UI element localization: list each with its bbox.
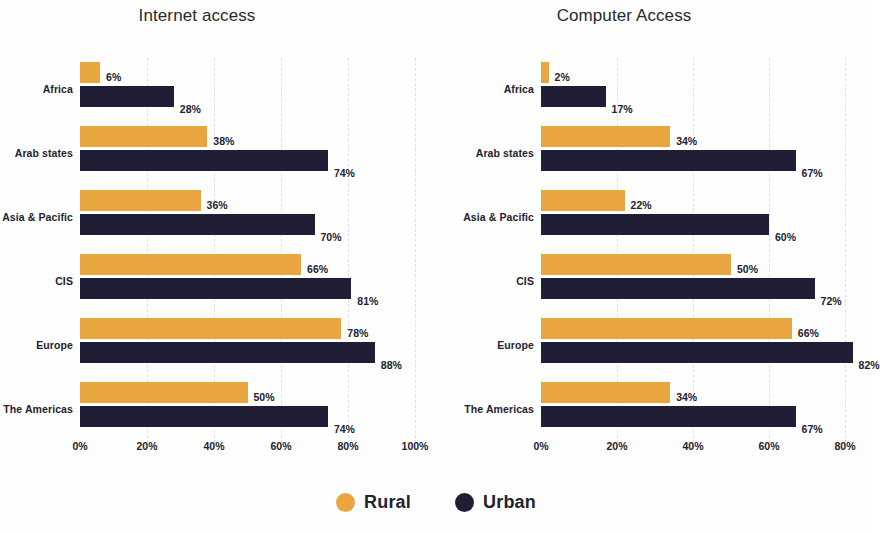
bar-group: CIS50%72% [541, 254, 845, 307]
bar-value-label: 60% [775, 231, 796, 243]
x-axis-tick: 20% [136, 440, 157, 452]
bar-value-label: 82% [859, 359, 880, 371]
bar-value-label: 36% [207, 199, 228, 211]
bar-value-label: 22% [631, 199, 652, 211]
bar-rural[interactable] [541, 318, 792, 339]
bar-urban[interactable] [541, 406, 796, 427]
chart-title-computer-access: Computer Access [436, 6, 872, 26]
bar-rural[interactable] [80, 318, 341, 339]
bar-rural[interactable] [80, 190, 201, 211]
bar-row-rural: 66% [541, 318, 845, 339]
bar-row-urban: 67% [541, 406, 845, 427]
bar-rural[interactable] [541, 254, 731, 275]
bar-value-label: 74% [334, 423, 355, 435]
category-label: Asia & Pacific [2, 211, 73, 223]
bar-urban[interactable] [80, 278, 351, 299]
legend-swatch-urban-circle-icon [455, 493, 474, 512]
bar-value-label: 66% [307, 263, 328, 275]
category-label: Asia & Pacific [463, 211, 534, 223]
bar-group: Europe78%88% [80, 318, 415, 371]
bar-value-label: 50% [737, 263, 758, 275]
x-axis-tick: 40% [203, 440, 224, 452]
category-label: Africa [504, 83, 534, 95]
bar-row-rural: 34% [541, 382, 845, 403]
bar-value-label: 50% [254, 391, 275, 403]
bar-rural[interactable] [80, 126, 207, 147]
bar-urban[interactable] [541, 150, 796, 171]
bar-row-urban: 67% [541, 150, 845, 171]
bar-rural[interactable] [80, 254, 301, 275]
bar-group: Europe66%82% [541, 318, 845, 371]
chart-panel-internet-access: Internet access Africa6%28%Arab states38… [0, 0, 436, 470]
bar-row-rural: 66% [80, 254, 415, 275]
bar-value-label: 17% [612, 103, 633, 115]
bar-group: Asia & Pacific22%60% [541, 190, 845, 243]
bar-rural[interactable] [80, 62, 100, 83]
x-axis-tick: 40% [682, 440, 703, 452]
bar-row-urban: 88% [80, 342, 415, 363]
bar-urban[interactable] [541, 342, 853, 363]
x-axis-tick: 100% [402, 440, 429, 452]
bar-row-rural: 6% [80, 62, 415, 83]
bar-row-rural: 50% [80, 382, 415, 403]
bar-group: Arab states34%67% [541, 126, 845, 179]
bar-value-label: 34% [676, 391, 697, 403]
legend-label-urban: Urban [483, 492, 536, 513]
bar-group: The Americas50%74% [80, 382, 415, 435]
category-label: Africa [43, 83, 73, 95]
bar-row-urban: 74% [80, 406, 415, 427]
bar-row-rural: 78% [80, 318, 415, 339]
bar-urban[interactable] [541, 278, 815, 299]
bar-urban[interactable] [80, 86, 174, 107]
bar-value-label: 74% [334, 167, 355, 179]
bar-value-label: 70% [321, 231, 342, 243]
bar-group: Arab states38%74% [80, 126, 415, 179]
bar-group: CIS66%81% [80, 254, 415, 307]
bar-urban[interactable] [80, 342, 375, 363]
bar-urban[interactable] [80, 214, 315, 235]
bar-group: Africa6%28% [80, 62, 415, 115]
bar-rural[interactable] [541, 382, 670, 403]
bar-row-urban: 17% [541, 86, 845, 107]
bar-value-label: 28% [180, 103, 201, 115]
x-axis-tick: 60% [758, 440, 779, 452]
category-label: Arab states [476, 147, 534, 159]
bar-row-rural: 2% [541, 62, 845, 83]
bar-value-label: 6% [106, 71, 121, 83]
category-label: CIS [55, 275, 73, 287]
x-axis-tick: 0% [533, 440, 548, 452]
legend-item-urban[interactable]: Urban [455, 492, 536, 513]
bar-rural[interactable] [541, 190, 625, 211]
bar-urban[interactable] [80, 150, 328, 171]
bar-rural[interactable] [541, 126, 670, 147]
gridline-100pct [415, 58, 416, 448]
bar-value-label: 67% [802, 423, 823, 435]
bar-value-label: 34% [676, 135, 697, 147]
x-axis-tick: 80% [834, 440, 855, 452]
bar-row-urban: 28% [80, 86, 415, 107]
bar-value-label: 78% [347, 327, 368, 339]
gridline-80pct [845, 58, 846, 448]
bar-urban[interactable] [80, 406, 328, 427]
x-axis-tick: 20% [606, 440, 627, 452]
category-label: The Americas [3, 403, 73, 415]
bar-value-label: 81% [357, 295, 378, 307]
bar-row-urban: 72% [541, 278, 845, 299]
chart-title-internet-access: Internet access [0, 6, 436, 26]
x-axis-tick: 0% [72, 440, 87, 452]
bar-row-urban: 74% [80, 150, 415, 171]
legend-label-rural: Rural [364, 492, 411, 513]
bar-value-label: 72% [821, 295, 842, 307]
bar-group: Africa2%17% [541, 62, 845, 115]
bar-urban[interactable] [541, 214, 769, 235]
bar-row-urban: 82% [541, 342, 845, 363]
bar-row-urban: 70% [80, 214, 415, 235]
bar-urban[interactable] [541, 86, 606, 107]
legend-item-rural[interactable]: Rural [336, 492, 411, 513]
plot-area-internet-access: Africa6%28%Arab states38%74%Asia & Pacif… [80, 62, 415, 448]
category-label: Arab states [15, 147, 73, 159]
bar-rural[interactable] [541, 62, 549, 83]
bar-row-rural: 34% [541, 126, 845, 147]
bar-rural[interactable] [80, 382, 248, 403]
